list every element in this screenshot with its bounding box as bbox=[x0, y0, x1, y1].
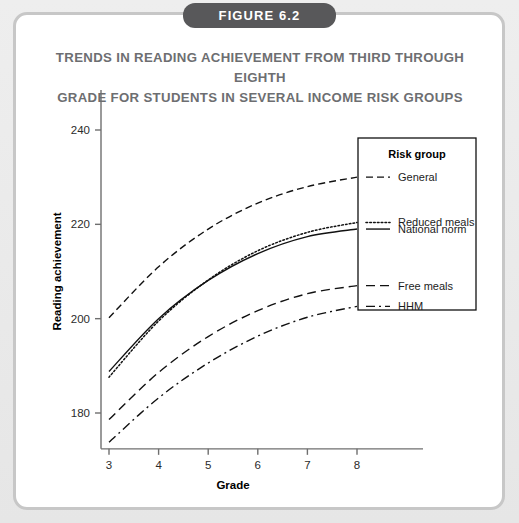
legend-label-national-norm[interactable]: National norm bbox=[398, 223, 466, 235]
x-axis-label: Grade bbox=[216, 479, 249, 491]
x-axis-tick-label: 4 bbox=[155, 459, 162, 471]
x-axis-tick-label: 3 bbox=[106, 459, 112, 471]
chart-title-line-1: TRENDS IN READING ACHIEVEMENT FROM THIRD… bbox=[30, 48, 490, 88]
y-axis-tick-label: 180 bbox=[71, 407, 90, 419]
x-axis-tick-label: 7 bbox=[304, 459, 310, 471]
legend-label-hhm[interactable]: HHM bbox=[398, 300, 423, 312]
y-axis-tick-label: 200 bbox=[71, 313, 90, 325]
chart-title: TRENDS IN READING ACHIEVEMENT FROM THIRD… bbox=[30, 48, 490, 108]
x-axis-tick-label: 6 bbox=[255, 459, 261, 471]
legend-title: Risk group bbox=[388, 148, 446, 160]
legend-label-general[interactable]: General bbox=[398, 171, 437, 183]
y-axis-label: Reading achievement bbox=[51, 212, 63, 330]
y-axis-tick-label: 240 bbox=[71, 124, 90, 136]
chart-title-line-2: GRADE FOR STUDENTS IN SEVERAL INCOME RIS… bbox=[30, 88, 490, 108]
legend-label-free-meals[interactable]: Free meals bbox=[398, 280, 454, 292]
x-axis-tick-label: 5 bbox=[205, 459, 211, 471]
y-axis-tick-label: 220 bbox=[71, 218, 90, 230]
series-line-reduced-meals bbox=[109, 222, 357, 377]
series-line-national-norm bbox=[109, 229, 357, 371]
x-axis-tick-label: 8 bbox=[354, 459, 360, 471]
series-line-hhm bbox=[109, 306, 357, 442]
series-line-general bbox=[109, 177, 357, 318]
series-line-free-meals bbox=[109, 286, 357, 420]
figure-badge: FIGURE 6.2 bbox=[183, 3, 336, 28]
